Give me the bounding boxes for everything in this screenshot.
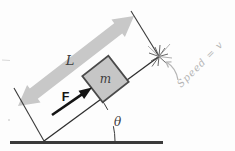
length-dimension-arrow — [18, 16, 134, 106]
length-label: L — [65, 53, 75, 68]
diagram-svg: L m F θ Speed = v — [0, 0, 235, 151]
angle-label: θ — [114, 115, 122, 129]
scan-speck — [8, 119, 10, 121]
force-arrow-head — [79, 88, 93, 100]
dimension-extension-line-top — [131, 11, 159, 57]
physics-incline-diagram: L m F θ Speed = v — [0, 0, 235, 151]
scan-smudge-left — [2, 60, 10, 61]
pencil-arrow — [167, 63, 178, 81]
handwritten-speed-note: Speed = v — [175, 39, 226, 90]
force-label: F — [62, 90, 70, 104]
mass-label: m — [100, 72, 111, 86]
